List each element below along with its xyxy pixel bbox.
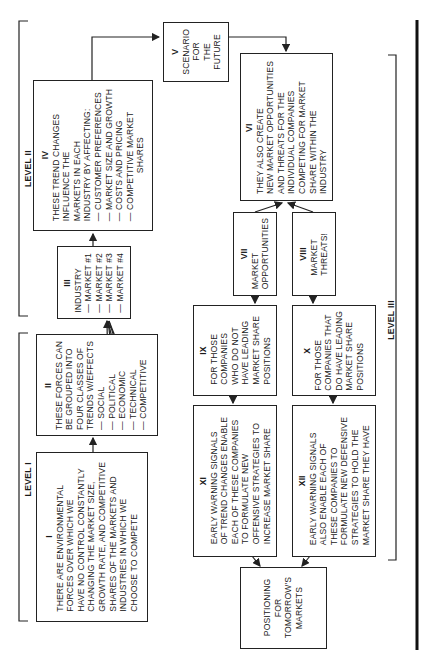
box-iv-trend-influence: IV THESE TREND CHANGES INFLUENCE THE MAR…	[33, 80, 153, 231]
box-xii-defensive-strategies: XII EARLY WARNING SIGNALS ALSO ENABLE EA…	[292, 405, 376, 557]
box-x-leaders: X FOR THOSE COMPANIES THAT DO HAVE LEADI…	[292, 305, 376, 396]
box-vii-market-opportunities: VII MARKET OPPORTUNITIES	[233, 212, 277, 296]
box-ix-non-leaders: IX FOR THOSE COMPANIES WHO DO NOT HAVE L…	[193, 305, 277, 396]
box-i-environmental-forces: I THERE ARE ENVIRONMENTAL FORCES OVER WH…	[36, 452, 148, 622]
level-2-label: LEVEL II	[23, 150, 33, 187]
box-positioning-tomorrows-markets: POSITIONING FOR TOMORROW'S MARKETS	[240, 567, 327, 649]
level-1-label: LEVEL I	[23, 462, 33, 496]
level-2-bracket	[19, 117, 28, 316]
box-ii-trend-classes: II THESE FORCES CAN BE GROUPED INTO FOUR…	[36, 334, 158, 436]
box-v-scenario: V SCENARIO FOR THE FUTURE	[163, 22, 229, 82]
arrow-v-to-vi	[228, 37, 286, 51]
arrow-iv-to-v	[92, 37, 159, 80]
box-xi-offensive-strategies: XI EARLY WARNING SIGNALS OF TREND CHANGE…	[193, 405, 277, 557]
box-viii-market-threats: VIII MARKET THREATS!	[292, 212, 336, 296]
level-3-label: LEVEL III	[386, 300, 396, 340]
level-2-bracket-top	[19, 21, 28, 117]
box-iii-industry: III INDUSTRY — MARKET #1 — MARKET #2 — M…	[57, 246, 131, 319]
box-vi-opportunities-threats: VI THEY ALSO CREATE NEW MARKET OPPORTUNI…	[240, 53, 333, 201]
